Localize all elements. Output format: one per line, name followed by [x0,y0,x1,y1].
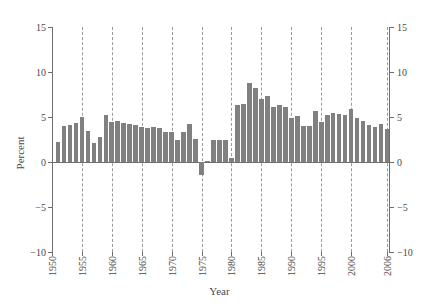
bar-1971 [175,140,180,162]
bar-1989 [283,107,288,162]
bar-1983 [247,83,252,162]
bar-1973 [187,124,192,162]
bar-1984 [253,88,258,162]
bar-1965 [139,127,144,162]
x-tick-label-1960: 1960 [107,256,118,276]
bar-1990 [289,118,294,162]
y-tick-label-right-10: 10 [397,67,407,78]
bar-1991 [295,116,300,162]
y-tick-label-right-5: 5 [397,112,402,123]
x-tick-label-1990: 1990 [286,256,297,276]
bar-1963 [127,124,132,162]
bar-1954 [74,123,79,162]
bar-1975 [199,162,204,175]
y-tick-label-left--5: −5 [35,202,46,213]
y-tick-label-left-10: 10 [36,67,46,78]
bar-1981 [235,105,240,162]
bar-1961 [115,121,120,162]
x-tick-label-2000: 2000 [346,256,357,276]
x-tick-label-2006: 2006 [382,256,393,276]
bar-1993 [307,126,312,162]
bar-1995 [319,122,324,163]
bar-1992 [301,126,306,162]
y-tick-label-left-0: 0 [41,157,46,168]
y-tick-label-left--10: −10 [30,247,46,258]
y-tick-label-right--10: −10 [397,247,413,258]
bar-1958 [98,137,103,162]
bar-1988 [277,105,282,162]
bar-1969 [163,132,168,162]
bar-1977 [211,140,216,163]
bar-1966 [145,128,150,162]
bar-1964 [133,125,138,162]
y-tick-label-right--5: −5 [397,202,408,213]
bar-1986 [265,96,270,162]
x-tick-label-1965: 1965 [137,256,148,276]
bar-2004 [373,127,378,162]
x-tick-label-1970: 1970 [167,256,178,276]
bar-1959 [104,115,109,162]
bar-1979 [223,140,228,163]
bar-1962 [121,123,126,162]
y-tick-right--10 [389,252,394,253]
bar-1974 [193,139,198,162]
bar-1952 [62,126,67,162]
bar-1968 [157,128,162,162]
bar-1976 [205,161,210,162]
x-tick-label-1980: 1980 [226,256,237,276]
bar-1998 [337,114,342,162]
x-tick-label-1975: 1975 [197,256,208,276]
bar-1972 [181,132,186,162]
bar-1957 [92,143,97,162]
bar-1955 [80,117,85,162]
x-axis-title: Year [0,285,439,297]
x-tick-label-1955: 1955 [77,256,88,276]
bar-1960 [109,122,114,162]
bar-2003 [367,125,372,162]
y-tick-label-left-5: 5 [41,112,46,123]
bar-1953 [68,125,73,162]
bar-1999 [343,115,348,162]
y-tick-label-right-15: 15 [397,22,407,33]
chart-canvas: Percent 151050−5−10 151050−5−10 19501955… [0,0,439,305]
bar-1951 [56,142,61,162]
bar-2005 [379,124,384,162]
bar-1956 [86,131,91,162]
y-tick-label-left-15: 15 [36,22,46,33]
y-tick-label-right-0: 0 [397,157,402,168]
bar-1978 [217,140,222,163]
bar-1967 [151,127,156,162]
x-tick-label-1950: 1950 [47,256,58,276]
bar-1985 [259,99,264,162]
right-axis-tick-labels: 151050−5−10 [397,0,427,305]
bar-series [52,27,390,252]
bar-1982 [241,104,246,162]
bar-1996 [325,115,330,162]
bar-1987 [271,107,276,162]
bar-2000 [349,109,354,162]
bar-1980 [229,158,234,163]
left-axis-tick-labels: 151050−5−10 [22,0,46,305]
bar-2002 [361,121,366,162]
x-tick-label-1995: 1995 [316,256,327,276]
bar-2001 [355,118,360,162]
bar-1970 [169,132,174,162]
bar-1997 [331,113,336,163]
bar-1994 [313,111,318,162]
x-tick-label-1985: 1985 [256,256,267,276]
bar-2006 [385,129,390,162]
